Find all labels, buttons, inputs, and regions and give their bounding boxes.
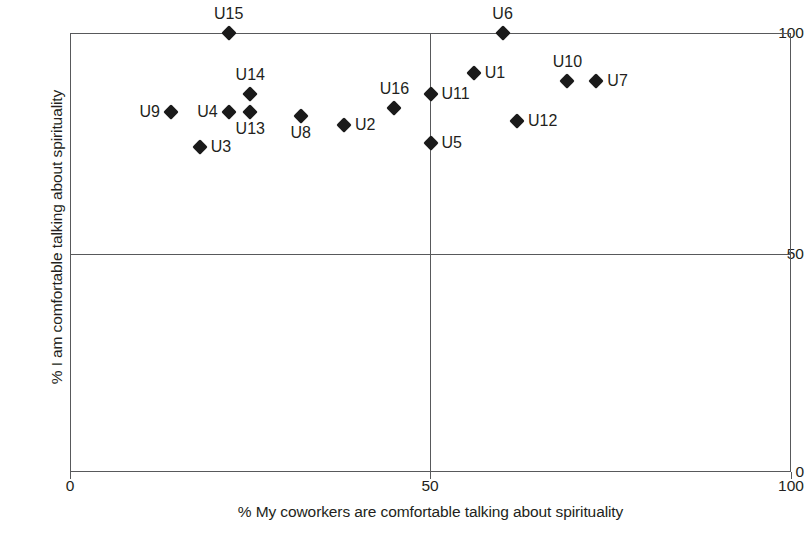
x-tick-label-0: 0 bbox=[50, 477, 90, 495]
x-tickmark-50 bbox=[430, 472, 431, 479]
data-point-label: U12 bbox=[528, 113, 557, 129]
y-axis-title: % I am comfortable talking about spiritu… bbox=[48, 27, 66, 447]
data-point-label: U6 bbox=[492, 6, 512, 22]
x-tickmark-0 bbox=[70, 472, 71, 479]
x-tick-label-50: 50 bbox=[410, 477, 450, 495]
data-point-label: U1 bbox=[485, 65, 505, 81]
data-point-label: U8 bbox=[290, 125, 310, 141]
x-tick-label-100: 100 bbox=[771, 477, 809, 495]
data-point-label: U10 bbox=[553, 54, 582, 70]
data-point-label: U16 bbox=[380, 81, 409, 97]
data-point-label: U13 bbox=[236, 121, 265, 137]
scatter-chart-figure: % I am comfortable talking about spiritu… bbox=[0, 0, 809, 534]
data-point-label: U3 bbox=[211, 139, 231, 155]
data-point-label: U15 bbox=[214, 6, 243, 22]
data-point-label: U14 bbox=[236, 67, 265, 83]
x-tickmark-100 bbox=[791, 472, 792, 479]
x-axis-title: % My coworkers are comfortable talking a… bbox=[70, 503, 791, 521]
data-point-label: U4 bbox=[197, 104, 217, 120]
data-point-label: U9 bbox=[139, 104, 159, 120]
data-point-label: U7 bbox=[607, 73, 627, 89]
data-point-label: U11 bbox=[442, 86, 470, 102]
data-point-label: U2 bbox=[355, 117, 375, 133]
plot-area: U15U6U14U1U10U7U9U4U13U16U11U8U2U12U5U3 bbox=[70, 33, 791, 472]
data-point-label: U5 bbox=[442, 135, 462, 151]
